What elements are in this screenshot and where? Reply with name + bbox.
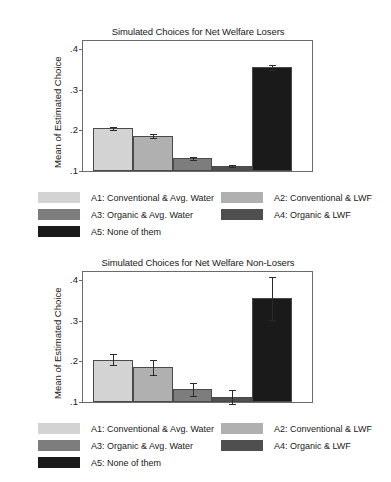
error-bar-cap [110, 127, 117, 128]
legend-item-a3: A3: Organic & Avg. Water [38, 440, 193, 451]
error-bar-a4 [232, 390, 233, 405]
legend-swatch [38, 209, 80, 220]
bar-a5 [252, 67, 292, 171]
y-axis-tick-label: .2 [70, 357, 78, 367]
error-bar-cap [229, 167, 236, 168]
plot-inner: .1.2.3.4 [83, 41, 312, 171]
error-bar-cap [110, 354, 117, 355]
y-axis-tick [79, 321, 83, 322]
plot-area: .1.2.3.4 [82, 271, 313, 403]
error-bar-a3 [193, 383, 194, 396]
error-bar-cap [150, 138, 157, 139]
legend-item-a4: A4: Organic & LWF [221, 209, 351, 220]
legend-item-a1: A1: Conventional & Avg. Water [38, 423, 214, 434]
legend-label: A1: Conventional & Avg. Water [91, 193, 214, 203]
legend-item-a2: A2: Conventional & LWF [221, 192, 372, 203]
chart-legend: A1: Conventional & Avg. WaterA2: Convent… [0, 423, 391, 474]
legend-row: A3: Organic & Avg. WaterA4: Organic & LW… [0, 440, 391, 457]
legend-row: A5: None of them [0, 457, 391, 474]
error-bar-cap [150, 375, 157, 376]
error-bar-cap [190, 160, 197, 161]
chart-title: Simulated Choices for Net Welfare Non-Lo… [82, 257, 314, 268]
y-axis-tick-label: .1 [70, 397, 78, 407]
y-axis-tick [79, 90, 83, 91]
legend-swatch [221, 209, 263, 220]
legend-item-a5: A5: None of them [38, 226, 161, 237]
legend-label: A4: Organic & LWF [274, 441, 351, 451]
y-axis-tick-label: .2 [70, 126, 78, 136]
legend-label: A2: Conventional & LWF [274, 424, 372, 434]
legend-label: A5: None of them [91, 458, 161, 468]
bar-a1 [93, 128, 133, 171]
chart-panel-non-losers: Simulated Choices for Net Welfare Non-Lo… [0, 241, 391, 482]
bar-a2 [133, 136, 173, 171]
error-bar-a1 [113, 354, 114, 365]
legend-label: A3: Organic & Avg. Water [91, 441, 193, 451]
error-bar-cap [190, 383, 197, 384]
plot-inner: .1.2.3.4 [83, 272, 312, 402]
error-bar-cap [229, 390, 236, 391]
y-axis-tick [79, 361, 83, 362]
error-bar-cap [269, 70, 276, 71]
legend-row: A1: Conventional & Avg. WaterA2: Convent… [0, 192, 391, 209]
legend-item-a1: A1: Conventional & Avg. Water [38, 192, 214, 203]
legend-item-a4: A4: Organic & LWF [221, 440, 351, 451]
error-bar-cap [269, 277, 276, 278]
error-bar-cap [190, 396, 197, 397]
legend-label: A4: Organic & LWF [274, 210, 351, 220]
error-bar-cap [150, 360, 157, 361]
y-axis-tick-label: .1 [70, 166, 78, 176]
legend-row: A3: Organic & Avg. WaterA4: Organic & LW… [0, 209, 391, 226]
y-axis-tick-label: .4 [70, 44, 78, 54]
error-bar-cap [269, 65, 276, 66]
chart-title: Simulated Choices for Net Welfare Losers [82, 26, 314, 37]
legend-swatch [38, 226, 80, 237]
legend-label: A5: None of them [91, 227, 161, 237]
y-axis-tick [79, 49, 83, 50]
error-bar-a2 [153, 360, 154, 375]
plot-area: .1.2.3.4 [82, 40, 313, 172]
error-bar-cap [229, 165, 236, 166]
legend-label: A2: Conventional & LWF [274, 193, 372, 203]
y-axis-tick [79, 280, 83, 281]
y-axis-tick-label: .3 [70, 85, 78, 95]
y-axis-tick [79, 171, 83, 172]
error-bar-cap [269, 320, 276, 321]
legend-row: A1: Conventional & Avg. WaterA2: Convent… [0, 423, 391, 440]
legend-item-a3: A3: Organic & Avg. Water [38, 209, 193, 220]
legend-swatch [221, 423, 263, 434]
error-bar-cap [190, 157, 197, 158]
chart-panel-losers: Simulated Choices for Net Welfare Losers… [0, 0, 391, 241]
legend-label: A1: Conventional & Avg. Water [91, 424, 214, 434]
y-axis-tick [79, 130, 83, 131]
error-bar-cap [229, 404, 236, 405]
legend-label: A3: Organic & Avg. Water [91, 210, 193, 220]
legend-swatch [38, 192, 80, 203]
y-axis-title: Mean of Estimated Choice [52, 288, 63, 399]
legend-swatch [221, 440, 263, 451]
legend-swatch [38, 440, 80, 451]
error-bar-cap [150, 134, 157, 135]
legend-swatch [38, 423, 80, 434]
legend-item-a2: A2: Conventional & LWF [221, 423, 372, 434]
chart-legend: A1: Conventional & Avg. WaterA2: Convent… [0, 192, 391, 243]
y-axis-tick [79, 402, 83, 403]
error-bar-cap [110, 365, 117, 366]
y-axis-title: Mean of Estimated Choice [52, 57, 63, 168]
legend-swatch [38, 457, 80, 468]
legend-swatch [221, 192, 263, 203]
legend-item-a5: A5: None of them [38, 457, 161, 468]
y-axis-tick-label: .3 [70, 316, 78, 326]
error-bar-cap [110, 130, 117, 131]
error-bar-a5 [272, 277, 273, 319]
y-axis-tick-label: .4 [70, 275, 78, 285]
figure-root: Simulated Choices for Net Welfare Losers… [0, 0, 391, 482]
